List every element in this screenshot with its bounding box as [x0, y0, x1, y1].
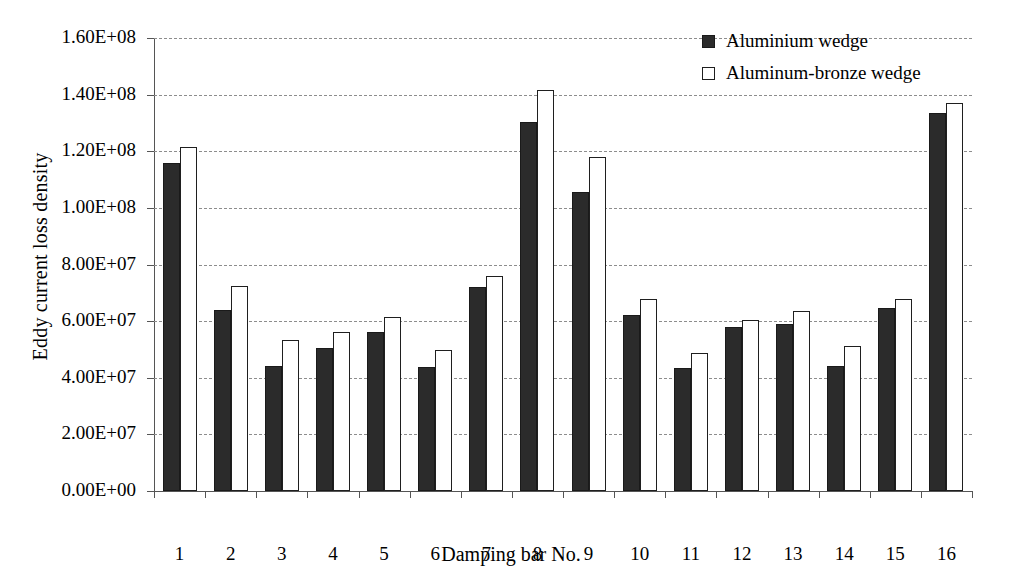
- bar: [282, 340, 299, 491]
- bar: [231, 286, 248, 491]
- x-axis-title: Damping bar No.: [0, 543, 1022, 566]
- x-axis-tick: [972, 491, 973, 498]
- gridline: [154, 95, 972, 96]
- y-axis-tick-label: 6.00E+07: [6, 309, 136, 331]
- bar: [435, 350, 452, 491]
- x-axis-tick: [716, 491, 717, 498]
- y-axis-tick-label: 4.00E+07: [6, 366, 136, 388]
- x-axis-tick: [768, 491, 769, 498]
- x-axis-tick: [307, 491, 308, 498]
- bar: [418, 367, 435, 491]
- bar: [674, 368, 691, 491]
- y-axis-tick: [147, 434, 154, 435]
- x-axis-tick: [359, 491, 360, 498]
- y-axis-tick: [147, 321, 154, 322]
- bar: [640, 299, 657, 491]
- x-axis-tick: [614, 491, 615, 498]
- bar: [589, 157, 606, 491]
- bar: [878, 308, 895, 491]
- bar: [469, 287, 486, 491]
- bar: [929, 113, 946, 491]
- bar: [725, 327, 742, 491]
- bar: [486, 276, 503, 491]
- y-axis-tick-label: 1.00E+08: [6, 196, 136, 218]
- bar: [827, 366, 844, 491]
- bar: [367, 332, 384, 491]
- y-axis-tick: [147, 378, 154, 379]
- y-axis-tick: [147, 151, 154, 152]
- gridline: [154, 265, 972, 266]
- y-axis-tick: [147, 265, 154, 266]
- bar: [180, 147, 197, 491]
- x-axis-tick: [461, 491, 462, 498]
- bar: [163, 163, 180, 491]
- bar: [793, 311, 810, 491]
- x-axis-tick: [410, 491, 411, 498]
- chart-legend: Aluminium wedge Aluminum-bronze wedge: [702, 27, 1002, 91]
- gridline: [154, 208, 972, 209]
- y-axis-tick: [147, 208, 154, 209]
- bar: [946, 103, 963, 491]
- bar: [691, 353, 708, 491]
- y-axis-tick-label: 2.00E+07: [6, 422, 136, 444]
- y-axis-tick: [147, 95, 154, 96]
- x-axis-tick: [154, 491, 155, 498]
- y-axis-tick-label: 1.60E+08: [6, 26, 136, 48]
- bar: [572, 192, 589, 491]
- bar: [776, 324, 793, 491]
- x-axis-tick: [205, 491, 206, 498]
- chart-figure: Eddy current loss density 12345678910111…: [0, 0, 1022, 583]
- bar: [895, 299, 912, 491]
- y-axis-tick-label: 1.20E+08: [6, 139, 136, 161]
- legend-swatch-filled-square-icon: [702, 35, 715, 48]
- legend-item-aluminium-wedge: Aluminium wedge: [702, 27, 1002, 55]
- legend-label: Aluminum-bronze wedge: [726, 62, 921, 84]
- bar: [520, 122, 537, 491]
- bar: [384, 317, 401, 491]
- x-axis-tick: [256, 491, 257, 498]
- plot-area: 12345678910111213141516: [154, 38, 972, 491]
- legend-swatch-open-square-icon: [702, 67, 715, 80]
- bar: [623, 315, 640, 491]
- bar: [537, 90, 554, 491]
- x-axis-tick: [512, 491, 513, 498]
- y-axis-tick-label: 8.00E+07: [6, 253, 136, 275]
- legend-label: Aluminium wedge: [726, 30, 868, 52]
- y-axis-tick-label: 1.40E+08: [6, 83, 136, 105]
- bar: [214, 310, 231, 491]
- x-axis-tick: [870, 491, 871, 498]
- x-axis-tick: [819, 491, 820, 498]
- bar: [742, 320, 759, 491]
- gridline: [154, 321, 972, 322]
- bar: [844, 346, 861, 491]
- bar: [265, 366, 282, 491]
- x-axis-tick: [665, 491, 666, 498]
- y-axis-tick-label: 0.00E+00: [6, 479, 136, 501]
- y-axis-tick: [147, 38, 154, 39]
- bar: [316, 348, 333, 491]
- gridline: [154, 151, 972, 152]
- x-axis-tick: [921, 491, 922, 498]
- bar: [333, 332, 350, 491]
- y-axis-tick: [147, 491, 154, 492]
- x-axis-tick: [563, 491, 564, 498]
- legend-item-aluminum-bronze-wedge: Aluminum-bronze wedge: [702, 59, 1002, 87]
